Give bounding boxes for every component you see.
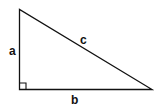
label-a: a [9,44,16,58]
right-triangle-diagram: a c b [0,0,160,109]
triangle-outline [20,10,153,90]
label-c: c [80,33,87,47]
right-angle-marker [20,83,27,90]
label-b: b [71,93,78,107]
